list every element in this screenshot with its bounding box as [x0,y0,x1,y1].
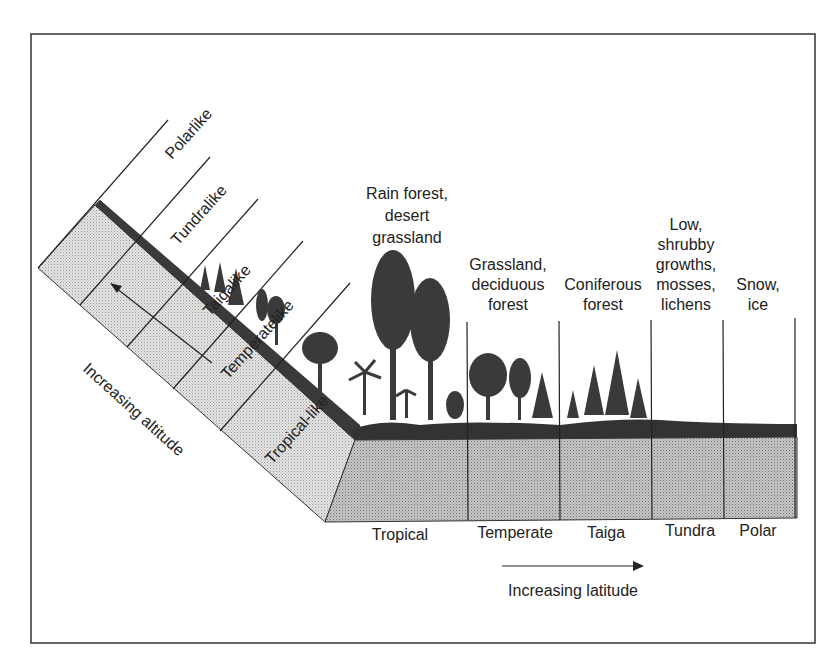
vegetation-label: forest [583,296,624,313]
flat-soil [350,420,797,440]
latitude-zone-label: Taiga [587,524,625,541]
vegetation-label: mosses, [656,276,716,293]
temperate-trees [469,353,553,420]
latitude-zone-label: Tropical [372,526,428,543]
latitude-zone-label: Polar [739,522,777,539]
flat-ground [325,437,797,522]
vegetation-label: grassland [372,229,441,246]
vegetation-label: deciduous [472,276,545,293]
vegetation-label: desert [385,207,430,224]
vegetation-label: Low, [670,216,703,233]
vegetation-label: Rain forest, [366,185,448,202]
vegetation-label: growths, [656,256,716,273]
altitude-latitude-biome-diagram: Polarlike Tundralike Taigalike Temperate… [0,0,832,669]
latitude-axis-label: Increasing latitude [508,582,638,599]
vegetation-label: shrubby [658,236,715,253]
vegetation-label: Snow, [736,276,780,293]
vegetation-label: lichens [661,296,711,313]
slope-ground [38,205,355,522]
latitude-zone-label: Temperate [477,524,553,541]
vegetation-label: ice [748,296,769,313]
taiga-trees [567,350,647,418]
vegetation-label: Grassland, [469,256,546,273]
vegetation-label: Coniferous [564,276,641,293]
tropical-trees [302,250,464,420]
altitude-zone-label: Polarlike [162,105,216,162]
vegetation-label: forest [488,296,529,313]
altitude-zone-label: Tundralike [168,181,230,248]
latitude-zone-names: Tropical Temperate Taiga Tundra Polar [372,522,778,543]
latitude-arrow [502,561,644,571]
latitude-zone-label: Tundra [665,522,715,539]
